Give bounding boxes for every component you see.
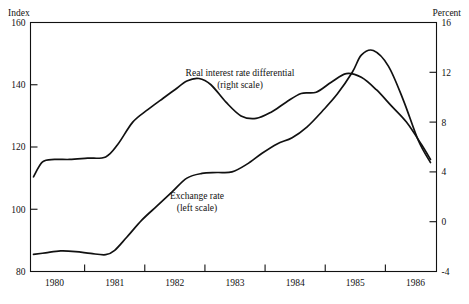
x-tick-label: 1980 — [45, 278, 64, 288]
left-axis-title: Index — [8, 8, 30, 18]
chart-container: Index Percent 80100120140160 -40481216 1… — [0, 0, 469, 304]
x-axis-ticks: 1980198119821983198419851986 — [45, 265, 425, 288]
right-tick-label: 4 — [442, 167, 447, 177]
right-axis-ticks: -40481216 — [430, 18, 452, 277]
right-tick-label: 16 — [442, 18, 452, 28]
x-tick-label: 1984 — [286, 278, 305, 288]
left-tick-label: 140 — [11, 80, 26, 90]
x-tick-label: 1981 — [105, 278, 124, 288]
right-tick-label: 12 — [442, 68, 452, 78]
right-tick-label: -4 — [442, 267, 450, 277]
x-tick-label: 1986 — [406, 278, 425, 288]
exchange-rate-interest-differential-chart: Index Percent 80100120140160 -40481216 1… — [0, 0, 469, 304]
right-tick-label: 0 — [442, 217, 447, 227]
left-tick-label: 120 — [11, 142, 26, 152]
annotation-sublabel: (right scale) — [217, 80, 263, 91]
right-tick-label: 8 — [442, 118, 447, 128]
chart-annotations: Real interest rate differential(right sc… — [170, 68, 295, 214]
annotation-label: Exchange rate — [170, 191, 224, 201]
right-axis-title: Percent — [433, 8, 462, 18]
left-axis-ticks: 80100120140160 — [11, 18, 37, 277]
annotation-sublabel: (left scale) — [177, 203, 217, 214]
annotation-exchange-rate: Exchange rate(left scale) — [170, 191, 224, 214]
plot-frame — [31, 23, 437, 272]
x-tick-label: 1983 — [226, 278, 245, 288]
left-tick-label: 160 — [11, 18, 26, 28]
annotation-label: Real interest rate differential — [186, 68, 295, 78]
left-tick-label: 80 — [16, 267, 26, 277]
left-tick-label: 100 — [11, 205, 26, 215]
x-tick-label: 1985 — [346, 278, 365, 288]
x-tick-label: 1982 — [165, 278, 184, 288]
